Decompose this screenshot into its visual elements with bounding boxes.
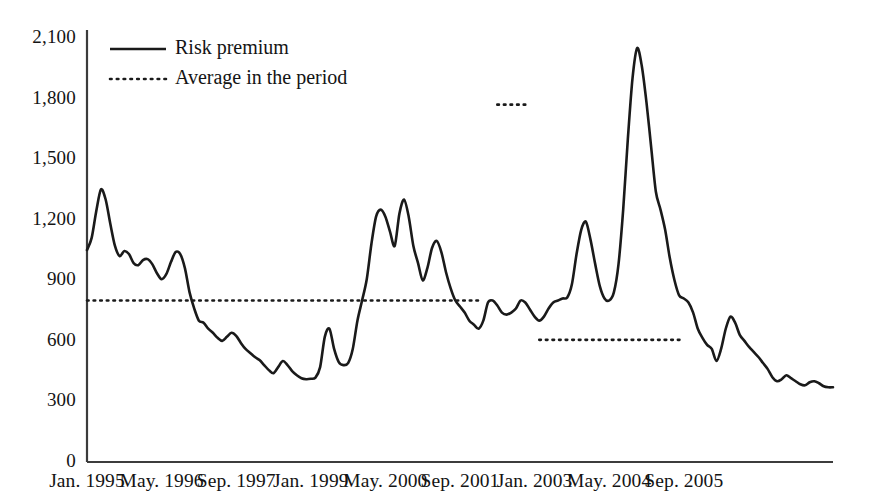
y-tick-label-2100: 2,100: [32, 26, 76, 48]
risk-premium-line: [87, 48, 833, 387]
y-tick-label-0: 0: [66, 450, 76, 472]
chart-plot-area: [0, 0, 887, 500]
y-tick-label-1800: 1,800: [32, 87, 76, 109]
average-lines-group: [87, 105, 684, 340]
legend-label-average: Average in the period: [175, 66, 347, 89]
y-tick-label-1500: 1,500: [32, 147, 76, 169]
risk-premium-chart: 03006009001,2001,5001,8002,100 Jan. 1995…: [0, 0, 887, 500]
legend-label-risk-premium: Risk premium: [175, 36, 289, 59]
y-tick-label-300: 300: [47, 389, 76, 411]
x-tick-label-sep-2005: Sep. 2005: [624, 470, 744, 492]
y-tick-label-600: 600: [47, 329, 76, 351]
y-tick-label-1200: 1,200: [32, 208, 76, 230]
y-tick-label-900: 900: [47, 268, 76, 290]
